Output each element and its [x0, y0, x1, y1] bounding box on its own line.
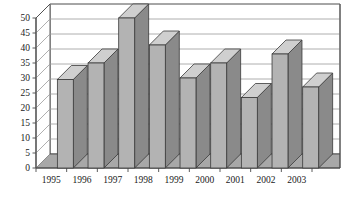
bar: [272, 40, 302, 168]
bar-side-face: [257, 84, 271, 169]
bar-front-face: [149, 45, 165, 168]
x-tick-label: 1997: [103, 175, 122, 185]
bar: [149, 31, 179, 168]
bar-side-face: [196, 64, 210, 168]
x-tick-label: 1998: [134, 175, 153, 185]
bar: [88, 49, 118, 168]
bar-front-face: [211, 63, 227, 168]
x-axis-labels: 199519961997199819992000200120022003: [42, 175, 307, 185]
y-tick-label: 30: [21, 73, 31, 83]
bar-side-face: [319, 73, 333, 168]
x-tick-label: 2000: [195, 175, 214, 185]
x-tick-label: 1999: [165, 175, 184, 185]
y-tick-label: 45: [21, 28, 31, 38]
bar: [211, 49, 241, 168]
bar-front-face: [303, 87, 319, 168]
bar: [180, 64, 210, 168]
bar-side-face: [135, 4, 149, 168]
y-tick-label: 0: [25, 163, 30, 173]
bar: [241, 84, 271, 169]
x-tick-label: 1996: [73, 175, 92, 185]
y-tick-label: 50: [21, 13, 31, 23]
bar-side-face: [288, 40, 302, 168]
bar-side-face: [104, 49, 118, 168]
bar-front-face: [180, 78, 196, 168]
bar-front-face: [57, 80, 73, 169]
y-tick-label: 15: [21, 118, 31, 128]
y-tick-label: 35: [21, 58, 31, 68]
bar-front-face: [119, 18, 135, 168]
bar-side-face: [227, 49, 241, 168]
bar-front-face: [272, 54, 288, 168]
y-tick-label: 5: [25, 148, 30, 158]
bar-side-face: [73, 66, 87, 169]
x-tick-label: 2001: [226, 175, 245, 185]
x-tick-label: 1995: [42, 175, 61, 185]
y-tick-label: 10: [21, 133, 31, 143]
x-tick-label: 2002: [257, 175, 276, 185]
bar: [57, 66, 87, 169]
bar: [119, 4, 149, 168]
bar-front-face: [241, 98, 257, 169]
y-tick-label: 25: [21, 88, 31, 98]
bar: [303, 73, 333, 168]
bar-side-face: [165, 31, 179, 168]
y-tick-label: 40: [21, 43, 31, 53]
chart-canvas: 0510152025303540455019951996199719981999…: [0, 0, 348, 204]
x-tick-label: 2003: [287, 175, 306, 185]
bar-front-face: [88, 63, 104, 168]
bar-chart: 0510152025303540455019951996199719981999…: [0, 0, 348, 204]
y-tick-label: 20: [21, 103, 31, 113]
